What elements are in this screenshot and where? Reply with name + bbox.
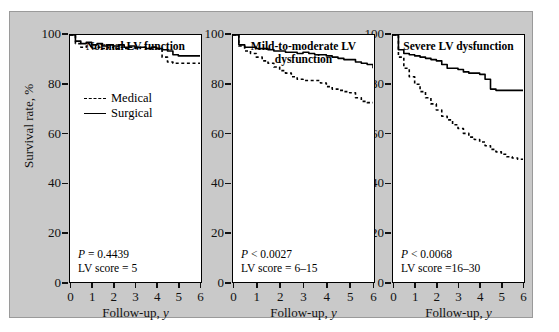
x-tick-mark [458, 283, 460, 288]
legend-swatch-solid [84, 113, 106, 114]
x-tick-mark [303, 283, 305, 288]
lv-score-text: LV score = 6–15 [241, 262, 317, 276]
x-tick-mark [156, 283, 158, 288]
series-line-surgical [393, 35, 523, 90]
x-tick-mark [113, 283, 115, 288]
y-tick-mark [385, 133, 391, 135]
x-tick-label: 2 [429, 289, 445, 305]
y-tick-mark [62, 183, 68, 185]
legend-label: Medical [111, 91, 152, 106]
y-tick-label: 100 [19, 26, 61, 42]
x-tick-mark [70, 283, 72, 288]
x-tick-mark [178, 283, 180, 288]
y-tick-mark [225, 282, 231, 284]
x-tick-label: 6 [516, 289, 532, 305]
x-tick-mark [233, 283, 235, 288]
x-tick-mark [436, 283, 438, 288]
series-line-medical [70, 35, 200, 63]
x-axis: 0123456Follow-up, y [392, 283, 525, 323]
x-tick-label: 5 [171, 289, 187, 305]
p-value-text: P < 0.0027 [241, 248, 317, 262]
lv-score-text: LV score =16–30 [401, 262, 480, 276]
x-tick-mark [91, 283, 93, 288]
x-tick-mark [200, 283, 202, 288]
survival-curves [70, 35, 200, 281]
x-tick-label: 1 [407, 289, 423, 305]
survival-curves [393, 35, 523, 281]
x-tick-label: 2 [106, 289, 122, 305]
x-tick-mark [349, 283, 351, 288]
series-line-surgical [233, 35, 373, 68]
x-tick-label: 1 [84, 289, 100, 305]
x-axis-label: Follow-up, y [232, 305, 375, 321]
plot-area: Normal LV functionMedicalSurgicalP = 0.4… [69, 34, 202, 283]
p-value-text: P = 0.4439 [78, 248, 137, 262]
survival-curves [233, 35, 373, 281]
x-tick-label: 5 [494, 289, 510, 305]
y-tick-mark [62, 83, 68, 85]
x-tick-mark [479, 283, 481, 288]
x-tick-label: 3 [296, 289, 312, 305]
x-tick-mark [523, 283, 525, 288]
figure-panel: Survival rate, % 02040608010002040608010… [9, 11, 533, 318]
legend-swatch-dashed [84, 98, 106, 99]
legend-item-surgical: Surgical [84, 106, 152, 121]
x-tick-mark [326, 283, 328, 288]
panel-annotation: P = 0.4439LV score = 5 [78, 248, 137, 275]
x-tick-label: 4 [149, 289, 165, 305]
legend: MedicalSurgical [84, 91, 152, 121]
x-tick-mark [135, 283, 137, 288]
y-tick-mark [385, 232, 391, 234]
x-tick-mark [414, 283, 416, 288]
legend-item-medical: Medical [84, 91, 152, 106]
plot-area: Severe LV dysfunctionP < 0.0068LV score … [392, 34, 525, 283]
chart-panel-3: Severe LV dysfunctionP < 0.0068LV score … [392, 34, 525, 283]
y-tick-mark [225, 33, 231, 35]
y-tick-label: 80 [19, 76, 61, 92]
y-tick-label: 20 [19, 225, 61, 241]
x-axis: 0123456Follow-up, y [232, 283, 375, 323]
y-tick-mark [225, 133, 231, 135]
y-tick-label: 0 [19, 275, 61, 291]
x-tick-mark [279, 283, 281, 288]
x-tick-label: 0 [386, 289, 402, 305]
chart-panel-2: Mild-to-moderate LV dysfunctionP < 0.002… [232, 34, 375, 283]
x-tick-mark [373, 283, 375, 288]
p-value-text: P < 0.0068 [401, 248, 480, 262]
y-tick-mark [385, 183, 391, 185]
x-tick-label: 2 [272, 289, 288, 305]
x-tick-label: 0 [226, 289, 242, 305]
x-tick-mark [256, 283, 258, 288]
x-tick-label: 3 [451, 289, 467, 305]
x-tick-label: 5 [342, 289, 358, 305]
x-tick-label: 6 [366, 289, 382, 305]
y-tick-mark [62, 33, 68, 35]
x-tick-mark [501, 283, 503, 288]
y-tick-mark [62, 133, 68, 135]
y-tick-mark [225, 232, 231, 234]
x-axis-label: Follow-up, y [392, 305, 525, 321]
y-tick-mark [225, 183, 231, 185]
x-tick-label: 6 [193, 289, 209, 305]
panel-annotation: P < 0.0068LV score =16–30 [401, 248, 480, 275]
y-tick-label: 40 [19, 175, 61, 191]
y-tick-mark [385, 33, 391, 35]
y-tick-mark [385, 83, 391, 85]
x-tick-label: 3 [128, 289, 144, 305]
y-tick-mark [385, 282, 391, 284]
panel-annotation: P < 0.0027LV score = 6–15 [241, 248, 317, 275]
y-tick-mark [62, 232, 68, 234]
x-axis: 0123456Follow-up, y [69, 283, 202, 323]
legend-label: Surgical [111, 106, 152, 121]
y-tick-mark [62, 282, 68, 284]
plot-area: Mild-to-moderate LV dysfunctionP < 0.002… [232, 34, 375, 283]
x-tick-label: 1 [249, 289, 265, 305]
x-axis-label: Follow-up, y [69, 305, 202, 321]
lv-score-text: LV score = 5 [78, 262, 137, 276]
x-tick-label: 4 [472, 289, 488, 305]
series-line-surgical [70, 35, 200, 56]
x-tick-mark [393, 283, 395, 288]
chart-panel-1: Normal LV functionMedicalSurgicalP = 0.4… [69, 34, 202, 283]
series-line-medical [393, 35, 523, 159]
x-tick-label: 0 [63, 289, 79, 305]
